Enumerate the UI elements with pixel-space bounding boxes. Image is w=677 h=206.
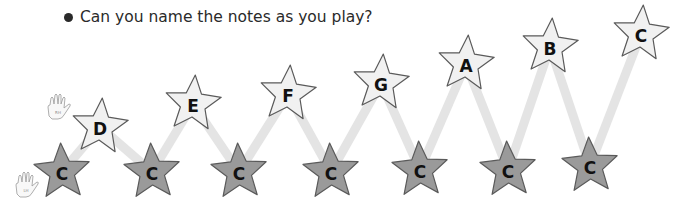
note-label: A <box>459 56 473 76</box>
note-label: E <box>187 96 199 116</box>
note-star-e-light: E <box>166 75 221 129</box>
note-star-c-dark: C <box>480 141 535 194</box>
note-label: B <box>544 39 557 59</box>
path-segment <box>508 47 550 170</box>
note-label: C <box>635 26 647 46</box>
svg-text:RH: RH <box>55 110 61 115</box>
note-star-c-dark: C <box>303 143 358 196</box>
note-label: C <box>146 164 158 184</box>
stars-group: CDCECFCGCACBCC <box>34 5 669 196</box>
note-label: C <box>502 162 514 182</box>
note-star-c-dark: C <box>392 141 447 194</box>
note-star-a-light: A <box>439 35 494 89</box>
note-label: C <box>56 164 68 184</box>
path-segment <box>590 34 641 166</box>
note-star-c-light: C <box>614 5 669 59</box>
note-label: C <box>233 164 245 184</box>
note-star-f-light: F <box>261 65 316 119</box>
note-star-c-dark: C <box>211 143 266 196</box>
note-label: D <box>93 119 107 139</box>
note-label: C <box>414 162 426 182</box>
note-star-path-diagram: RHLH CDCECFCGCACBCC <box>0 0 677 206</box>
svg-text:LH: LH <box>23 188 28 193</box>
left-hand-icon: LH <box>16 172 38 197</box>
right-hand-icon: RH <box>48 94 70 119</box>
note-star-b-light: B <box>523 18 578 72</box>
note-label: F <box>282 86 294 106</box>
note-star-c-dark: C <box>562 137 617 190</box>
note-label: C <box>584 158 596 178</box>
note-label: G <box>374 75 388 95</box>
note-label: C <box>325 164 337 184</box>
note-star-g-light: G <box>354 54 409 108</box>
